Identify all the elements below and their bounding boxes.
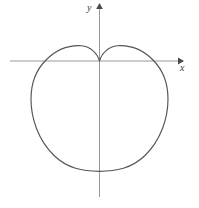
- plot-canvas: [0, 0, 199, 208]
- y-axis-arrow-icon: [96, 3, 103, 9]
- cardioid-figure: y x: [0, 0, 199, 208]
- figure-bottom-margin: [0, 198, 199, 208]
- x-axis-label: x: [180, 63, 184, 73]
- y-axis-label: y: [87, 3, 91, 13]
